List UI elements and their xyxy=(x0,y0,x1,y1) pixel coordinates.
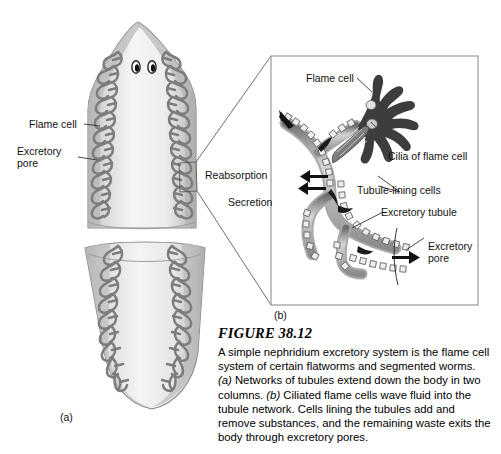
figure-caption-block: FIGURE 38.12 A simple nephridium excreto… xyxy=(218,325,501,444)
planarian-anterior-body xyxy=(88,22,196,229)
label-excretory-tubule: Excretory tubule xyxy=(381,206,457,218)
label-reabsorption: Reabsorption xyxy=(205,169,267,181)
planarian-posterior-body xyxy=(85,242,205,409)
figure-caption-text: A simple nephridium excretory system is … xyxy=(218,345,501,444)
label-cilia-of-flame-cell: Cilia of flame cell xyxy=(388,150,467,162)
label-tubule-lining-cells: Tubule-lining cells xyxy=(357,184,441,196)
panel-label-a: (a) xyxy=(60,411,73,423)
label-excretory-pore-inset: Excretory pore xyxy=(428,240,472,264)
figure-number: FIGURE 38.12 xyxy=(218,325,501,342)
label-secretion: Secretion xyxy=(228,196,272,208)
label-excretory-pore-organism: Excretory pore xyxy=(17,145,61,169)
label-flame-cell-inset: Flame cell xyxy=(306,72,354,84)
inset-panel-b xyxy=(271,56,478,305)
panel-label-b: (b) xyxy=(274,309,287,321)
label-flame-cell-organism: Flame cell xyxy=(29,118,77,130)
